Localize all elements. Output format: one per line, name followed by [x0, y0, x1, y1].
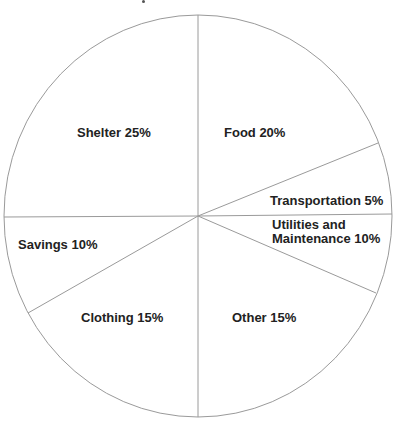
pie-chart: [0, 0, 396, 422]
label-transportation: Transportation 5%: [270, 194, 383, 208]
label-utilities-line2: Maintenance 10%: [272, 232, 380, 246]
label-food: Food 20%: [224, 126, 285, 140]
label-utilities-line1: Utilities and: [272, 218, 346, 232]
label-shelter: Shelter 25%: [77, 126, 151, 140]
label-other: Other 15%: [232, 311, 296, 325]
label-clothing: Clothing 15%: [81, 311, 163, 325]
label-savings: Savings 10%: [18, 238, 98, 252]
